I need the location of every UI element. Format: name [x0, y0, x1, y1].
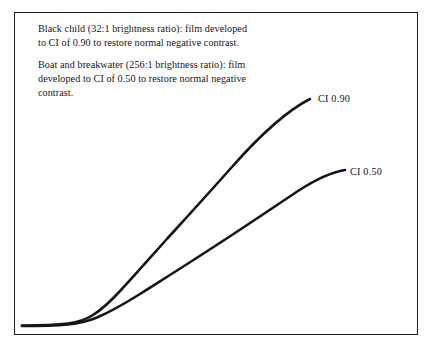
caption-block: Black child (32:1 brightness ratio): fil… — [38, 22, 253, 100]
curve-label-ci-050: CI 0.50 — [350, 166, 382, 177]
curve-label-ci-090: CI 0.90 — [318, 93, 350, 104]
tone-reproduction-figure: Black child (32:1 brightness ratio): fil… — [0, 0, 436, 350]
caption-black-child: Black child (32:1 brightness ratio): fil… — [38, 22, 253, 50]
caption-boat-breakwater: Boat and breakwater (256:1 brightness ra… — [38, 58, 253, 100]
